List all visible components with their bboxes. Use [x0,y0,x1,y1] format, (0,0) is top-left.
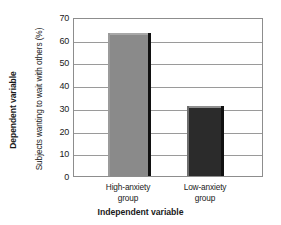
y-tick-label: 0 [47,173,69,182]
y-tick-label: 10 [47,150,69,159]
bar-fill [187,106,221,176]
plot-area [73,18,263,177]
gridline [74,64,262,65]
bar-low-anxiety[interactable] [187,106,221,176]
independent-variable-axis-title: Independent variable [0,207,281,217]
y-axis-tick-labels: 70 60 50 40 30 20 10 0 [44,18,69,177]
gridline [74,133,262,134]
gridline [74,110,262,111]
bar-right-shadow [148,33,151,176]
y-tick-label: 20 [47,128,69,137]
y-tick-label: 40 [47,82,69,91]
bar-right-shadow [221,106,224,176]
bar-left-highlight [108,33,110,176]
x-category-label-low-anxiety: Low-anxiety group [160,182,250,203]
bar-top-highlight [187,106,221,108]
dependent-variable-axis-title: Dependent variable [8,55,22,165]
bar-chart-figure: Dependent variable Subjects wanting to w… [0,0,281,225]
bar-left-highlight [187,106,189,176]
x-category-line: Low-anxiety [160,182,250,193]
y-tick-label: 30 [47,105,69,114]
y-tick-label: 50 [47,59,69,68]
gridline [74,87,262,88]
bar-fill [108,33,148,176]
gridline [74,42,262,43]
bar-high-anxiety[interactable] [108,33,148,176]
gridline [74,155,262,156]
y-tick-label: 70 [47,14,69,23]
x-category-line: group [160,193,250,204]
bar-top-highlight [108,33,148,35]
y-tick-label: 60 [47,37,69,46]
